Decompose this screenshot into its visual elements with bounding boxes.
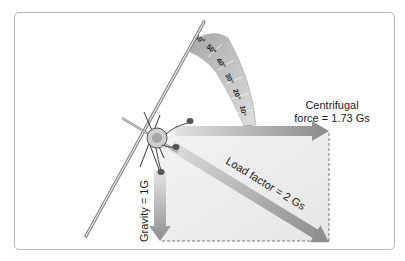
load-factor-diagram: 60° 50° 40° 30° 20° 10° (0, 0, 405, 261)
centrifugal-label-line1: Centrifugal (305, 99, 358, 111)
gravity-label: Gravity = 1G (138, 180, 150, 242)
bank-angle-scale: 60° 50° 40° 30° 20° 10° (190, 33, 256, 132)
centrifugal-label-line2: force = 1.73 Gs (294, 112, 370, 124)
